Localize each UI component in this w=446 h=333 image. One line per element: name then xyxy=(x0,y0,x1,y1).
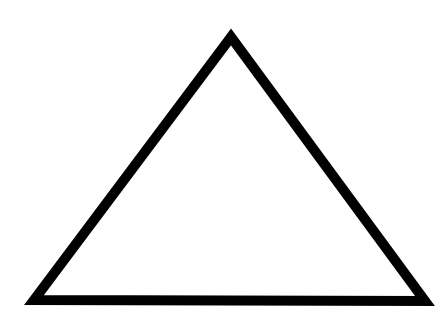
triangle-outline xyxy=(34,37,425,301)
triangle-diagram xyxy=(0,0,446,333)
